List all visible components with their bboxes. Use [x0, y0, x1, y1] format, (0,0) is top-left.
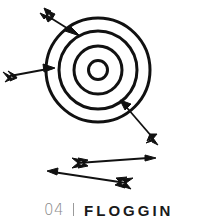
section-title: FLOGGIN: [84, 202, 173, 217]
divider: [73, 203, 74, 216]
arrow-icon: [40, 8, 80, 36]
arrow-icon: [47, 168, 133, 189]
arrow-icon: [120, 100, 158, 145]
arrow-icon: [72, 155, 156, 168]
target-icon: [46, 18, 150, 122]
section-number: 04: [44, 201, 64, 216]
caption: 04 FLOGGIN: [44, 200, 173, 216]
target-with-arrows-icon: [0, 0, 198, 200]
